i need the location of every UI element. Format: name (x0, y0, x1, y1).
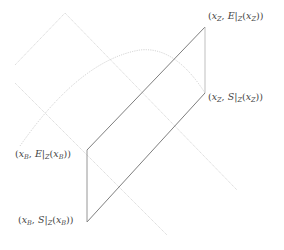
dotted-arc (20, 50, 205, 146)
label-xZ-E: (xZ, E|Z(xZ)) (208, 11, 263, 23)
light-line-upleft (15, 13, 65, 65)
diagram-canvas (0, 0, 284, 250)
edge-xB-S-to-xZ-S (87, 93, 205, 222)
label-xB-E: (xB, E|Z(xB)) (15, 149, 71, 161)
label-xZ-S: (xZ, S|Z(xZ)) (208, 92, 263, 104)
label-xB-S: (xB, S|Z(xB)) (18, 215, 73, 227)
edge-xB-E-to-xZ-E (87, 27, 205, 150)
